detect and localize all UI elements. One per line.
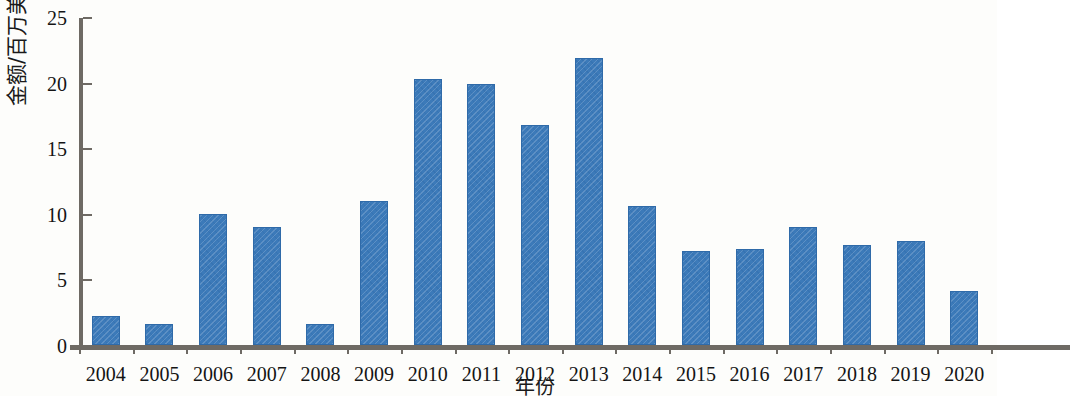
x-axis-tick-label: 2018 (837, 363, 877, 386)
bar (360, 201, 388, 345)
x-axis-line (70, 345, 1070, 350)
x-axis-tick (294, 345, 296, 354)
bar (789, 227, 817, 345)
x-axis-tick (79, 345, 81, 354)
x-axis-tick (776, 345, 778, 354)
bar (950, 291, 978, 345)
bar (682, 251, 710, 345)
bar (467, 84, 495, 345)
x-axis-tick (723, 345, 725, 354)
bar (199, 214, 227, 345)
x-axis-tick-label: 2014 (622, 363, 662, 386)
x-axis-tick-label: 2009 (354, 363, 394, 386)
y-axis-tick-label: 15 (47, 138, 67, 161)
y-axis-tick (83, 17, 92, 19)
x-axis-tick-label: 2007 (247, 363, 287, 386)
bar (736, 249, 764, 345)
bar (145, 324, 173, 345)
y-axis-tick (83, 279, 92, 281)
x-axis-tick-label: 2004 (86, 363, 126, 386)
x-axis-tick-label: 2006 (193, 363, 233, 386)
bar (306, 324, 334, 345)
plot-area: 0510152025 20042005200620072008200920102… (79, 18, 991, 346)
bar (897, 241, 925, 345)
x-axis-tick-label: 2012 (515, 363, 555, 386)
x-axis-tick (615, 345, 617, 354)
x-axis-tick-label: 2011 (462, 363, 501, 386)
y-axis-line (79, 18, 83, 346)
x-axis-tick-label: 2010 (408, 363, 448, 386)
x-axis-tick (884, 345, 886, 354)
x-axis-tick-label: 2017 (783, 363, 823, 386)
y-axis-tick-label: 25 (47, 7, 67, 30)
x-axis-tick-label: 2013 (569, 363, 609, 386)
bar (521, 125, 549, 345)
y-axis-title: 金额/百万美元 (0, 0, 30, 106)
bar (843, 245, 871, 345)
y-axis-tick (83, 148, 92, 150)
y-axis-tick-label: 0 (57, 335, 67, 358)
x-axis-tick-label: 2015 (676, 363, 716, 386)
x-axis-tick (240, 345, 242, 354)
x-axis-tick-label: 2016 (730, 363, 770, 386)
bar (575, 58, 603, 345)
x-axis-tick-label: 2008 (300, 363, 340, 386)
x-axis-tick-label: 2019 (891, 363, 931, 386)
bar (253, 227, 281, 345)
x-axis-tick (133, 345, 135, 354)
y-axis-tick (83, 345, 92, 347)
x-axis-tick (830, 345, 832, 354)
x-axis-tick (401, 345, 403, 354)
bar (628, 206, 656, 345)
x-axis-tick (455, 345, 457, 354)
y-axis-tick (83, 214, 92, 216)
y-axis-tick (83, 83, 92, 85)
x-axis-tick (937, 345, 939, 354)
x-axis-tick (669, 345, 671, 354)
y-axis-tick-label: 20 (47, 72, 67, 95)
bar (414, 79, 442, 345)
bar (92, 316, 120, 345)
x-axis-tick (186, 345, 188, 354)
x-axis-tick-label: 2020 (944, 363, 984, 386)
x-axis-tick-label: 2005 (139, 363, 179, 386)
y-axis-tick-label: 5 (57, 269, 67, 292)
x-axis-tick (562, 345, 564, 354)
x-axis-tick (347, 345, 349, 354)
y-axis-tick-label: 10 (47, 203, 67, 226)
x-axis-tick (991, 345, 993, 354)
x-axis-tick (508, 345, 510, 354)
